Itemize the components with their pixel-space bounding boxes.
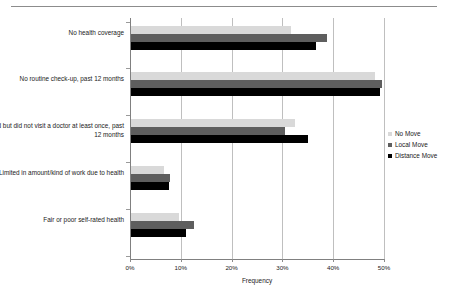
category-label: No health coverage: [0, 29, 124, 38]
bar: [131, 127, 285, 135]
x-axis-tick: [130, 259, 131, 262]
x-axis-tick-label: 20%: [217, 264, 247, 271]
y-axis-tick: [126, 256, 130, 257]
bar: [131, 88, 380, 96]
bar: [131, 174, 170, 182]
bar: [131, 34, 327, 42]
legend-swatch-icon: [388, 143, 392, 147]
x-axis-tick: [282, 259, 283, 262]
x-axis-line: [130, 259, 384, 260]
bar: [131, 229, 186, 237]
y-axis-tick: [126, 209, 130, 210]
y-axis-tick: [126, 22, 130, 23]
bar: [131, 119, 295, 127]
category-label: Ill/injured but did not visit a doctor a…: [0, 122, 124, 139]
legend-label: No Move: [395, 130, 421, 137]
legend-item[interactable]: Local Move: [388, 139, 448, 150]
x-axis-tick-label: 0%: [115, 264, 145, 271]
legend-label: Distance Move: [395, 152, 437, 159]
x-axis-tick: [232, 259, 233, 262]
y-axis-tick: [126, 115, 130, 116]
legend-item[interactable]: Distance Move: [388, 150, 448, 161]
bar: [131, 213, 179, 221]
bar: [131, 221, 194, 229]
x-axis-tick-label: 50%: [369, 264, 399, 271]
legend-swatch-icon: [388, 154, 392, 158]
gridline: [384, 18, 385, 259]
x-axis-tick: [384, 259, 385, 262]
category-label: No routine check-up, past 12 months: [0, 75, 124, 84]
bar: [131, 135, 308, 143]
gridline: [333, 18, 334, 259]
category-label: Fair or poor self-rated health: [0, 216, 124, 225]
bar: [131, 72, 375, 80]
y-axis-tick: [126, 68, 130, 69]
bar: [131, 182, 169, 190]
bar: [131, 42, 316, 50]
bar: [131, 80, 382, 88]
x-axis-tick: [333, 259, 334, 262]
x-axis-tick: [181, 259, 182, 262]
category-label: Limited in amount/kind of work due to he…: [0, 169, 124, 178]
x-axis-tick-label: 30%: [267, 264, 297, 271]
x-axis-tick-label: 40%: [318, 264, 348, 271]
legend-item[interactable]: No Move: [388, 128, 448, 139]
bar-chart-figure: No health coverageNo routine check-up, p…: [0, 0, 449, 296]
chart-legend: No MoveLocal MoveDistance Move: [388, 128, 448, 161]
legend-label: Local Move: [395, 141, 428, 148]
bar: [131, 166, 164, 174]
bar: [131, 26, 291, 34]
y-axis-tick: [126, 162, 130, 163]
legend-swatch-icon: [388, 132, 392, 136]
x-axis-tick-label: 10%: [166, 264, 196, 271]
header-divider: [11, 6, 437, 7]
x-axis-title: Frequency: [130, 277, 384, 284]
